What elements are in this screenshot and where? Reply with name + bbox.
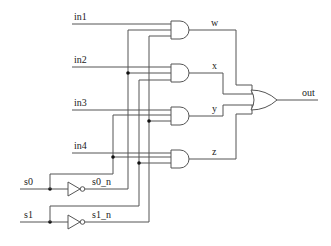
label-in4: in4 bbox=[74, 140, 87, 151]
circuit-diagram: in1 in2 in3 in4 s0 s0_n s1 bbox=[0, 0, 331, 246]
junction-s1n-gate3 bbox=[147, 119, 151, 123]
input-in2: in2 bbox=[72, 54, 171, 67]
label-s1-n: s1_n bbox=[92, 209, 111, 220]
or-input-wires bbox=[223, 30, 255, 159]
label-in3: in3 bbox=[74, 97, 87, 108]
and-gate-3: y bbox=[171, 103, 223, 125]
label-in1: in1 bbox=[74, 11, 87, 22]
label-in2: in2 bbox=[74, 54, 87, 65]
select-s1: s1 bbox=[20, 80, 171, 224]
label-z: z bbox=[212, 146, 217, 157]
label-s0-n: s0_n bbox=[92, 176, 111, 187]
junction-s0-gate4 bbox=[111, 155, 115, 159]
label-w: w bbox=[211, 17, 219, 28]
junction-s0n-gate2 bbox=[126, 71, 130, 75]
input-in3: in3 bbox=[72, 97, 171, 110]
or-gate: out bbox=[251, 87, 318, 110]
junction-s1-gate4 bbox=[137, 161, 141, 165]
input-in4: in4 bbox=[72, 140, 171, 153]
and-gate-4: z bbox=[171, 146, 236, 168]
label-x: x bbox=[212, 60, 217, 71]
and-gate-2: x bbox=[171, 60, 223, 82]
label-s0: s0 bbox=[24, 176, 33, 187]
label-out: out bbox=[302, 87, 315, 98]
label-s1: s1 bbox=[24, 209, 33, 220]
input-in1: in1 bbox=[72, 11, 171, 24]
label-y: y bbox=[212, 103, 217, 114]
and-gate-1: w bbox=[171, 17, 236, 39]
